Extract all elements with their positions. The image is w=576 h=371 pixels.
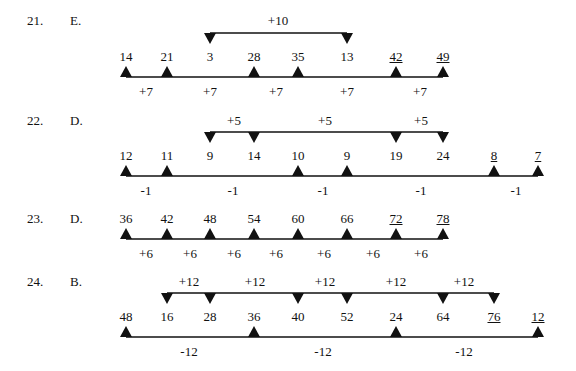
difference-label-above: +5 bbox=[227, 114, 241, 128]
down-triangle-marker-icon bbox=[341, 33, 353, 44]
answer-key-page: 21.E.142132835134249+7+7+7+7+7+1022.D.12… bbox=[0, 0, 576, 371]
sequence-value: 11 bbox=[161, 149, 174, 163]
sequence-value: 64 bbox=[437, 310, 450, 324]
difference-label-above: +10 bbox=[268, 14, 288, 28]
sequence-value: 24 bbox=[390, 310, 403, 324]
difference-label-below: +6 bbox=[269, 247, 283, 261]
down-triangle-marker-icon bbox=[204, 33, 216, 44]
down-triangle-marker-icon bbox=[437, 132, 449, 143]
difference-label-below: +7 bbox=[413, 85, 427, 99]
sequence-value: 60 bbox=[292, 212, 305, 226]
difference-label-above: +12 bbox=[454, 275, 474, 289]
difference-label-below: -12 bbox=[314, 345, 331, 359]
difference-label-above: +12 bbox=[315, 275, 335, 289]
answer-letter: D. bbox=[70, 212, 83, 226]
down-triangle-marker-icon bbox=[204, 132, 216, 143]
down-triangle-marker-icon bbox=[390, 132, 402, 143]
up-triangle-marker-icon bbox=[248, 228, 260, 239]
down-triangle-marker-icon bbox=[292, 293, 304, 304]
up-triangle-marker-icon bbox=[161, 228, 173, 239]
down-triangle-marker-icon bbox=[488, 293, 500, 304]
answer-letter: E. bbox=[70, 14, 81, 28]
difference-label-below: +7 bbox=[203, 85, 217, 99]
up-triangle-marker-icon bbox=[437, 66, 449, 77]
sequence-value: 9 bbox=[344, 149, 351, 163]
down-triangle-marker-icon bbox=[161, 293, 173, 304]
up-triangle-marker-icon bbox=[120, 66, 132, 77]
up-triangle-marker-icon bbox=[120, 165, 132, 176]
up-triangle-marker-icon bbox=[248, 326, 260, 337]
difference-label-below: +6 bbox=[139, 247, 153, 261]
up-triangle-marker-icon bbox=[532, 165, 544, 176]
difference-label-above: +12 bbox=[179, 275, 199, 289]
sequence-value: 24 bbox=[437, 149, 450, 163]
up-triangle-marker-icon bbox=[292, 228, 304, 239]
difference-label-below: +6 bbox=[317, 247, 331, 261]
difference-label-below: -1 bbox=[511, 184, 522, 198]
difference-label-below: +7 bbox=[269, 85, 283, 99]
sequence-value: 13 bbox=[341, 50, 354, 64]
sequence-value: 49 bbox=[437, 50, 450, 64]
up-triangle-marker-icon bbox=[532, 326, 544, 337]
problem-number: 23. bbox=[27, 212, 43, 226]
up-triangle-marker-icon bbox=[341, 228, 353, 239]
sequence-value: 36 bbox=[120, 212, 133, 226]
difference-label-below: +6 bbox=[227, 247, 241, 261]
sequence-value: 16 bbox=[161, 310, 174, 324]
sequence-value: 21 bbox=[161, 50, 174, 64]
up-triangle-marker-icon bbox=[488, 165, 500, 176]
sequence-value: 7 bbox=[535, 149, 542, 163]
sequence-value: 42 bbox=[390, 50, 403, 64]
sequence-value: 28 bbox=[248, 50, 261, 64]
difference-label-above: +5 bbox=[414, 114, 428, 128]
answer-letter: B. bbox=[70, 275, 82, 289]
up-triangle-marker-icon bbox=[248, 66, 260, 77]
difference-label-below: +7 bbox=[340, 85, 354, 99]
difference-label-below: +6 bbox=[366, 247, 380, 261]
difference-label-below: -12 bbox=[180, 345, 197, 359]
difference-label-below: +7 bbox=[139, 85, 153, 99]
problem-number: 22. bbox=[27, 114, 43, 128]
up-triangle-marker-icon bbox=[120, 326, 132, 337]
sequence-value: 48 bbox=[204, 212, 217, 226]
up-triangle-marker-icon bbox=[390, 228, 402, 239]
sequence-value: 54 bbox=[248, 212, 261, 226]
sequence-value: 8 bbox=[491, 149, 498, 163]
sequence-value: 9 bbox=[207, 149, 214, 163]
sequence-value: 12 bbox=[120, 149, 133, 163]
down-triangle-marker-icon bbox=[437, 293, 449, 304]
sequence-value: 40 bbox=[292, 310, 305, 324]
sequence-value: 14 bbox=[120, 50, 133, 64]
up-triangle-marker-icon bbox=[161, 66, 173, 77]
sequence-value: 10 bbox=[292, 149, 305, 163]
sequence-value: 52 bbox=[341, 310, 354, 324]
problem-number: 24. bbox=[27, 275, 43, 289]
up-triangle-marker-icon bbox=[390, 66, 402, 77]
up-triangle-marker-icon bbox=[204, 228, 216, 239]
up-triangle-marker-icon bbox=[341, 165, 353, 176]
difference-label-above: +12 bbox=[245, 275, 265, 289]
up-triangle-marker-icon bbox=[292, 165, 304, 176]
sequence-value: 78 bbox=[437, 212, 450, 226]
sequence-value: 14 bbox=[248, 149, 261, 163]
sequence-value: 19 bbox=[390, 149, 403, 163]
up-triangle-marker-icon bbox=[120, 228, 132, 239]
answer-letter: D. bbox=[70, 114, 83, 128]
difference-label-below: -1 bbox=[416, 184, 427, 198]
difference-label-below: -1 bbox=[318, 184, 329, 198]
problem-number: 21. bbox=[27, 14, 43, 28]
difference-label-below: +6 bbox=[183, 247, 197, 261]
difference-label-below: -12 bbox=[455, 345, 472, 359]
sequence-value: 42 bbox=[161, 212, 174, 226]
difference-label-below: -1 bbox=[228, 184, 239, 198]
up-triangle-marker-icon bbox=[390, 326, 402, 337]
sequence-value: 35 bbox=[292, 50, 305, 64]
difference-label-below: -1 bbox=[141, 184, 152, 198]
difference-label-above: +5 bbox=[318, 114, 332, 128]
sequence-value: 3 bbox=[207, 50, 214, 64]
sequence-value: 72 bbox=[390, 212, 403, 226]
up-triangle-marker-icon bbox=[161, 165, 173, 176]
sequence-value: 36 bbox=[248, 310, 261, 324]
up-triangle-marker-icon bbox=[292, 66, 304, 77]
sequence-value: 66 bbox=[341, 212, 354, 226]
